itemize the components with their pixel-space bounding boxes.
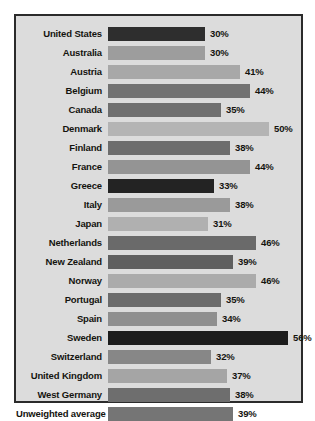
bar-category-label: France: [16, 159, 102, 175]
bar-fill: [108, 103, 221, 117]
bar-category-label: Austria: [16, 64, 102, 80]
bar-row: New Zealand39%: [16, 254, 301, 273]
bar-category-label: Spain: [16, 311, 102, 327]
bar-row: Denmark50%: [16, 121, 301, 140]
bar-category-label: United States: [16, 26, 102, 42]
bar-category-label: Belgium: [16, 83, 102, 99]
bar-row: Finland38%: [16, 140, 301, 159]
bar-value-label: 33%: [219, 179, 238, 193]
bar-fill: [108, 122, 269, 136]
bar-value-label: 30%: [210, 46, 229, 60]
bar-track: 35%: [108, 103, 301, 117]
bar-track: 34%: [108, 312, 301, 326]
bar-track: 38%: [108, 388, 301, 402]
bar-row: Unweighted average39%: [16, 406, 301, 421]
bar-row: West Germany38%: [16, 387, 301, 406]
bar-fill: [108, 293, 221, 307]
bar-track: 32%: [108, 350, 301, 364]
bar-row: Portugal35%: [16, 292, 301, 311]
bar-value-label: 34%: [222, 312, 241, 326]
bar-category-label: Unweighted average: [16, 406, 102, 421]
bar-fill: [108, 350, 211, 364]
bar-track: 38%: [108, 198, 301, 212]
bar-row: France44%: [16, 159, 301, 178]
bar-category-label: Japan: [16, 216, 102, 232]
chart-plot-area: United States30%Australia30%Austria41%Be…: [16, 16, 301, 401]
bar-category-label: Portugal: [16, 292, 102, 308]
bar-value-label: 38%: [235, 388, 254, 402]
bar-track: 44%: [108, 160, 301, 174]
bar-category-label: New Zealand: [16, 254, 102, 270]
bar-row: Switzerland32%: [16, 349, 301, 368]
bar-category-label: Finland: [16, 140, 102, 156]
bar-row: United States30%: [16, 26, 301, 45]
bar-track: 33%: [108, 179, 301, 193]
bar-track: 44%: [108, 84, 301, 98]
bar-fill: [108, 331, 288, 345]
bar-fill: [108, 198, 230, 212]
bar-fill: [108, 388, 230, 402]
bar-row: Austria41%: [16, 64, 301, 83]
bar-track: 38%: [108, 141, 301, 155]
bar-fill: [108, 65, 240, 79]
bar-value-label: 50%: [274, 122, 293, 136]
bar-track: 30%: [108, 46, 301, 60]
bar-value-label: 37%: [232, 369, 251, 383]
bar-value-label: 46%: [261, 236, 280, 250]
bar-track: 30%: [108, 27, 301, 41]
bar-track: 46%: [108, 236, 301, 250]
bar-fill: [108, 407, 233, 421]
bar-fill: [108, 255, 233, 269]
bar-fill: [108, 179, 214, 193]
bar-value-label: 31%: [213, 217, 232, 231]
bar-category-label: United Kingdom: [16, 368, 102, 384]
bar-value-label: 56%: [293, 331, 312, 345]
bar-row: United Kingdom37%: [16, 368, 301, 387]
bar-track: 31%: [108, 217, 301, 231]
bar-track: 41%: [108, 65, 301, 79]
bar-value-label: 44%: [255, 160, 274, 174]
bar-category-label: Italy: [16, 197, 102, 213]
bar-value-label: 35%: [226, 103, 245, 117]
bar-track: 39%: [108, 255, 301, 269]
bar-track: 39%: [108, 407, 301, 421]
bar-fill: [108, 84, 250, 98]
bar-value-label: 39%: [238, 255, 257, 269]
bar-category-label: Netherlands: [16, 235, 102, 251]
bar-category-label: Switzerland: [16, 349, 102, 365]
bar-row: Italy38%: [16, 197, 301, 216]
bar-fill: [108, 217, 208, 231]
chart-figure: United States30%Australia30%Austria41%Be…: [14, 14, 303, 403]
bar-value-label: 39%: [238, 407, 257, 421]
bar-fill: [108, 274, 256, 288]
bar-row: Netherlands46%: [16, 235, 301, 254]
bar-row: Belgium44%: [16, 83, 301, 102]
bar-value-label: 35%: [226, 293, 245, 307]
bar-fill: [108, 369, 227, 383]
bar-category-label: Denmark: [16, 121, 102, 137]
bar-track: 56%: [108, 331, 301, 345]
bar-category-label: West Germany: [16, 387, 102, 403]
bar-row: Japan31%: [16, 216, 301, 235]
bar-value-label: 38%: [235, 198, 254, 212]
bar-fill: [108, 312, 217, 326]
bar-row: Norway46%: [16, 273, 301, 292]
bar-value-label: 38%: [235, 141, 254, 155]
bar-row: Greece33%: [16, 178, 301, 197]
bar-value-label: 44%: [255, 84, 274, 98]
bar-fill: [108, 46, 205, 60]
bar-track: 35%: [108, 293, 301, 307]
bar-row: Canada35%: [16, 102, 301, 121]
bar-row: Australia30%: [16, 45, 301, 64]
bar-track: 50%: [108, 122, 301, 136]
bar-category-label: Sweden: [16, 330, 102, 346]
bar-fill: [108, 141, 230, 155]
bar-category-label: Greece: [16, 178, 102, 194]
bar-fill: [108, 27, 205, 41]
bar-value-label: 30%: [210, 27, 229, 41]
bar-fill: [108, 236, 256, 250]
bar-track: 37%: [108, 369, 301, 383]
bar-track: 46%: [108, 274, 301, 288]
bar-category-label: Australia: [16, 45, 102, 61]
bar-category-label: Canada: [16, 102, 102, 118]
